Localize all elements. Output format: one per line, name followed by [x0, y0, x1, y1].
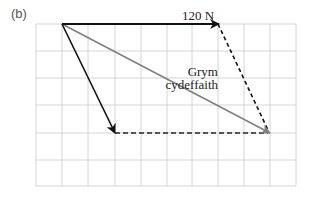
force-120n-label: 120 N [182, 8, 215, 23]
grid [36, 24, 296, 186]
construction-line-right [218, 24, 268, 130]
resultant-label-line2: cydeffaith [166, 77, 219, 92]
vector-diagram: 120 N Grym cydeffaith [0, 0, 310, 197]
